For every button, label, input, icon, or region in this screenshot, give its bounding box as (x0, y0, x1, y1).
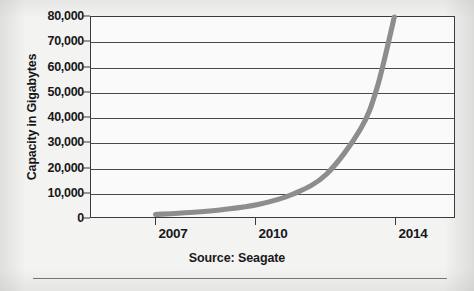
x-tick-label-2010: 2010 (258, 226, 287, 241)
y-tick-mark-30000 (83, 142, 90, 143)
capacity-curve (91, 17, 454, 217)
x-tick-mark-2007 (155, 218, 156, 225)
source-caption: Source: Seagate (0, 251, 474, 265)
x-tick-mark-2014 (395, 218, 396, 225)
y-tick-mark-40000 (83, 117, 90, 118)
bottom-divider (33, 278, 447, 279)
x-tick-label-2014: 2014 (398, 226, 427, 241)
y-axis-tick-labels: 80,000 70,000 60,000 50,000 40,000 30,00… (0, 0, 84, 291)
y-tick-label-70000: 70,000 (0, 34, 84, 48)
y-tick-label-20000: 20,000 (0, 161, 84, 175)
y-tick-label-50000: 50,000 (0, 85, 84, 99)
chart-figure: Capacity in Gigabytes 80,000 70,000 60,0… (0, 0, 474, 291)
plot-area (90, 16, 455, 218)
y-tick-mark-80000 (83, 16, 90, 17)
y-tick-label-80000: 80,000 (0, 9, 84, 23)
y-tick-label-0: 0 (0, 211, 84, 225)
capacity-curve-path (156, 17, 395, 214)
x-tick-label-2007: 2007 (158, 226, 187, 241)
y-tick-label-60000: 60,000 (0, 60, 84, 74)
y-tick-label-10000: 10,000 (0, 186, 84, 200)
y-tick-mark-20000 (83, 167, 90, 168)
x-tick-mark-2010 (255, 218, 256, 225)
y-tick-mark-50000 (83, 91, 90, 92)
y-tick-label-40000: 40,000 (0, 110, 84, 124)
y-tick-mark-0 (83, 218, 90, 219)
y-tick-mark-10000 (83, 192, 90, 193)
y-tick-mark-70000 (83, 41, 90, 42)
y-tick-mark-60000 (83, 66, 90, 67)
y-tick-label-30000: 30,000 (0, 135, 84, 149)
